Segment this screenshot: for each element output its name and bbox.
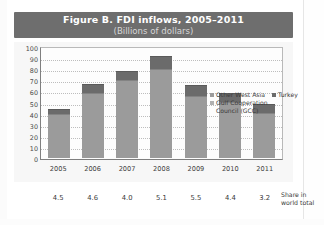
bar-segment-other-west-asia[interactable] xyxy=(48,114,70,126)
bar-segment-turkey[interactable] xyxy=(82,84,104,93)
bar-segment-gcc[interactable] xyxy=(82,116,104,158)
bar-segment-other-west-asia[interactable] xyxy=(185,96,207,106)
bar-column[interactable] xyxy=(82,49,104,158)
figure-page: Figure B. FDI inflows, 2005–2011 (Billio… xyxy=(0,0,324,225)
bar-segment-gcc[interactable] xyxy=(219,113,241,158)
bar-segment-turkey[interactable] xyxy=(185,85,207,96)
y-axis-ticks: 0102030405060708090100 xyxy=(14,47,38,160)
legend-swatch-gcc-icon xyxy=(210,101,214,105)
share-label-line1: Share in xyxy=(281,191,306,198)
page-bottom-margin xyxy=(0,219,324,225)
share-in-world-total-value: 5.1 xyxy=(148,194,174,202)
legend-label-turkey: Turkey xyxy=(278,91,298,99)
legend-swatch-turkey-icon xyxy=(272,93,276,97)
legend-row-primary: Other West Asia Turkey xyxy=(210,91,306,99)
page-left-margin xyxy=(0,0,7,225)
bar-segment-turkey[interactable] xyxy=(150,56,172,69)
chart-legend: Other West Asia Turkey Gulf Cooperation … xyxy=(210,91,306,116)
figure-subtitle: (Billions of dollars) xyxy=(14,26,293,37)
x-axis-tick-label: 2005 xyxy=(43,165,73,173)
legend-row-gcc-cont: Council (GCC) xyxy=(210,107,306,115)
legend-label-gcc-line2: Council (GCC) xyxy=(216,107,258,115)
y-axis-tick-label: 50 xyxy=(16,100,38,108)
y-axis-tick-label: 20 xyxy=(16,133,38,141)
y-axis-tick-label: 30 xyxy=(16,122,38,130)
share-in-world-total-value: 4.4 xyxy=(217,194,243,202)
bar-column[interactable] xyxy=(185,49,207,158)
y-axis-tick-label: 90 xyxy=(16,56,38,64)
share-in-world-total-value: 3.2 xyxy=(252,194,278,202)
x-axis-ticks: 2005200620072008200920102011 xyxy=(41,165,282,173)
bar-segment-gcc[interactable] xyxy=(253,129,275,158)
y-axis-tick-label: 0 xyxy=(16,156,38,164)
y-axis-tick-label: 80 xyxy=(16,67,38,75)
y-axis-tick-label: 70 xyxy=(16,78,38,86)
bar-column[interactable] xyxy=(116,49,138,158)
x-axis-tick-label: 2006 xyxy=(78,165,108,173)
bar-segment-gcc[interactable] xyxy=(150,91,172,158)
x-axis-tick-label: 2010 xyxy=(215,165,245,173)
x-axis-tick-label: 2011 xyxy=(250,165,280,173)
bar-segment-other-west-asia[interactable] xyxy=(150,69,172,91)
share-in-world-total-row: 4.54.64.05.15.54.43.2 xyxy=(41,194,282,202)
bar-segment-gcc[interactable] xyxy=(48,126,70,158)
x-axis-tick-label: 2008 xyxy=(146,165,176,173)
legend-swatch-other-west-asia-icon xyxy=(210,93,214,97)
legend-row-gcc: Gulf Cooperation xyxy=(210,99,306,107)
legend-label-other-west-asia: Other West Asia xyxy=(216,91,265,99)
share-in-world-total-value: 4.6 xyxy=(80,194,106,202)
share-in-world-total-value: 5.5 xyxy=(183,194,209,202)
x-axis-tick-label: 2009 xyxy=(181,165,211,173)
bar-column[interactable] xyxy=(150,49,172,158)
y-axis-tick-label: 60 xyxy=(16,89,38,97)
bar-column[interactable] xyxy=(48,49,70,158)
share-in-world-total-value: 4.0 xyxy=(114,194,140,202)
share-in-world-total-value: 4.5 xyxy=(45,194,71,202)
x-axis-tick-label: 2007 xyxy=(112,165,142,173)
bar-segment-gcc[interactable] xyxy=(185,106,207,158)
bar-segment-turkey[interactable] xyxy=(116,71,138,80)
y-axis-tick-label: 100 xyxy=(16,45,38,53)
legend-label-gcc-line1: Gulf Cooperation xyxy=(216,99,268,107)
y-axis-tick-label: 10 xyxy=(16,144,38,152)
chart-canvas: 0102030405060708090100 Other West Asia T… xyxy=(14,42,293,182)
y-axis-tick-label: 40 xyxy=(16,111,38,119)
bar-segment-other-west-asia[interactable] xyxy=(82,93,104,116)
share-label-line2: world total xyxy=(281,199,314,206)
share-in-world-total-label: Share in world total xyxy=(281,191,321,206)
figure-title: Figure B. FDI inflows, 2005–2011 xyxy=(14,14,293,26)
bar-segment-other-west-asia[interactable] xyxy=(116,80,138,105)
figure-title-banner: Figure B. FDI inflows, 2005–2011 (Billio… xyxy=(14,12,293,38)
bar-segment-gcc[interactable] xyxy=(116,105,138,158)
